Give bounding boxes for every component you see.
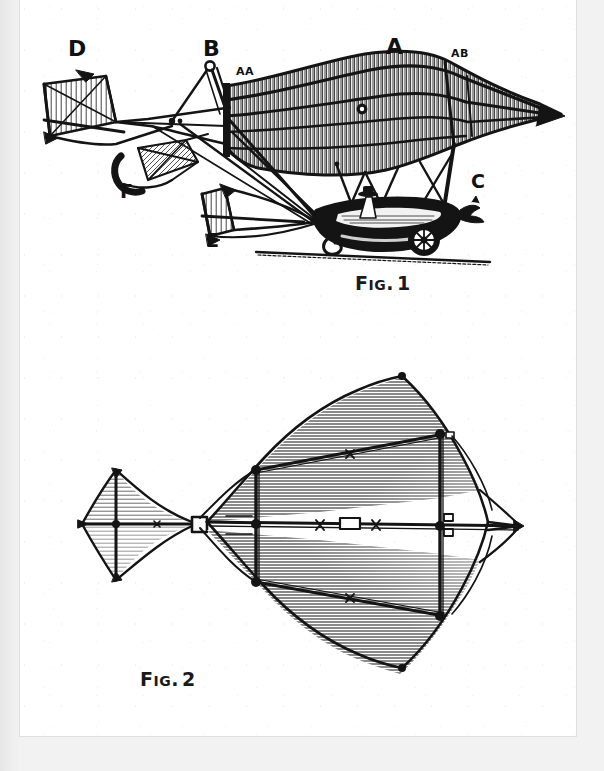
figure-2 [20, 330, 576, 730]
fig2-caption-dot: . [171, 668, 179, 690]
label-C: C [471, 172, 485, 191]
fig1-caption-f: F [355, 272, 368, 294]
main-wing-plan [207, 372, 524, 674]
label-AB: AB [451, 48, 469, 59]
label-F: F [120, 182, 133, 201]
label-AA: AA [236, 66, 254, 77]
figure-2-caption: FIG.2 [140, 668, 196, 690]
label-D: D [68, 38, 86, 60]
fig2-caption-f: F [140, 668, 153, 690]
main-wing-A [223, 51, 565, 175]
tail-panel [78, 468, 198, 582]
figure-1-drawing [20, 4, 576, 324]
fig2-caption-ig: IG [153, 673, 171, 689]
fig2-caption-number: 2 [182, 668, 196, 690]
ground-line [256, 252, 490, 265]
label-B: B [203, 38, 220, 60]
figure-1: D B AA A AB C F E [20, 4, 576, 324]
label-A: A [386, 36, 403, 58]
gondola-car [313, 186, 484, 255]
fig1-caption-dot: . [386, 272, 394, 294]
figure-1-caption: FIG.1 [355, 272, 411, 294]
label-E: E [206, 231, 219, 250]
scanner-bed: D B AA A AB C F E [0, 0, 604, 771]
figure-2-drawing [20, 330, 576, 730]
central-hub-fitting [192, 517, 207, 532]
forward-vane-D [44, 70, 172, 145]
fig1-caption-ig: IG [368, 277, 386, 293]
fig1-caption-number: 1 [397, 272, 411, 294]
